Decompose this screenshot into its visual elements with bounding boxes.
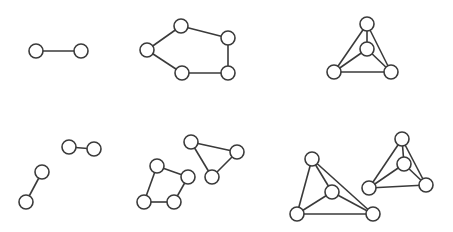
graph-node — [221, 31, 235, 45]
graph-node — [87, 142, 101, 156]
graph-node — [384, 65, 398, 79]
graph-k2-pair — [19, 140, 101, 209]
graph-node — [305, 152, 319, 166]
graph-node — [360, 42, 374, 56]
graph-node — [290, 207, 304, 221]
graph-k4-pair — [290, 132, 433, 221]
graph-node — [181, 170, 195, 184]
graph-node — [205, 170, 219, 184]
graph-node — [395, 132, 409, 146]
graph-node — [174, 19, 188, 33]
graph-node — [167, 195, 181, 209]
graph-node — [184, 135, 198, 149]
graph-node — [362, 181, 376, 195]
graph-node — [419, 178, 433, 192]
graph-node — [360, 17, 374, 31]
graph-node — [327, 65, 341, 79]
graph-c5 — [140, 19, 235, 80]
graph-edge — [369, 185, 426, 188]
graph-node — [19, 195, 33, 209]
graph-node — [137, 195, 151, 209]
graph-node — [35, 165, 49, 179]
graph-node — [29, 44, 43, 58]
graph-node — [74, 44, 88, 58]
graph-k4 — [327, 17, 398, 79]
graph-node — [230, 145, 244, 159]
graph-node — [366, 207, 380, 221]
graph-diagram-canvas — [0, 0, 453, 232]
graph-node — [397, 157, 411, 171]
graph-k2 — [29, 44, 88, 58]
graph-node — [221, 66, 235, 80]
graph-node — [140, 43, 154, 57]
graph-node — [175, 66, 189, 80]
graph-c4-plus-c3 — [137, 135, 244, 209]
graph-node — [325, 185, 339, 199]
graph-node — [62, 140, 76, 154]
graph-node — [150, 159, 164, 173]
